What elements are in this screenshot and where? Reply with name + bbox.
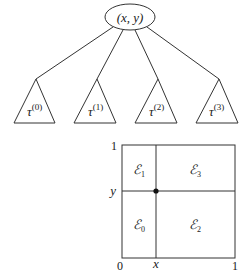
- y-max-label: 1: [111, 139, 117, 153]
- unit-square: ℰ1 ℰ3 ℰ0 ℰ2 1 y 0 x 1: [108, 139, 238, 273]
- split-point-dot: [153, 188, 158, 193]
- x-max-label: 1: [232, 259, 238, 273]
- edge-2: [135, 30, 158, 79]
- subtree-label: τ(1): [88, 102, 103, 119]
- subtree-triangle: [14, 79, 55, 123]
- subtree-label: τ(3): [209, 102, 224, 119]
- x-min-label: 0: [117, 259, 123, 273]
- x-split-label: x: [152, 256, 159, 271]
- subtree-triangle: [196, 79, 238, 123]
- root-label: (x, y): [117, 10, 144, 25]
- subtree-triangle: [135, 79, 177, 123]
- y-split-label: y: [108, 183, 116, 198]
- subtree-1: τ(1): [74, 79, 116, 123]
- edge-1: [97, 30, 123, 79]
- region-label-2: ℰ2: [189, 217, 201, 234]
- subtree-label: τ(2): [149, 102, 164, 119]
- tree-edges: [36, 27, 219, 79]
- region-label-1: ℰ1: [133, 162, 145, 179]
- region-label-0: ℰ0: [133, 217, 145, 234]
- region-label-3: ℰ3: [189, 162, 201, 179]
- quadtree-diagram: (x, y) τ(0) τ(1) τ(2) τ(3) ℰ1 ℰ3 ℰ0 ℰ2 1: [0, 0, 251, 276]
- subtree-3: τ(3): [196, 79, 238, 123]
- edge-3: [147, 27, 219, 79]
- root-node: (x, y): [105, 4, 155, 30]
- subtree-2: τ(2): [135, 79, 177, 123]
- subtree-triangle: [74, 79, 116, 123]
- subtree-label: τ(0): [27, 102, 42, 119]
- subtree-0: τ(0): [14, 79, 55, 123]
